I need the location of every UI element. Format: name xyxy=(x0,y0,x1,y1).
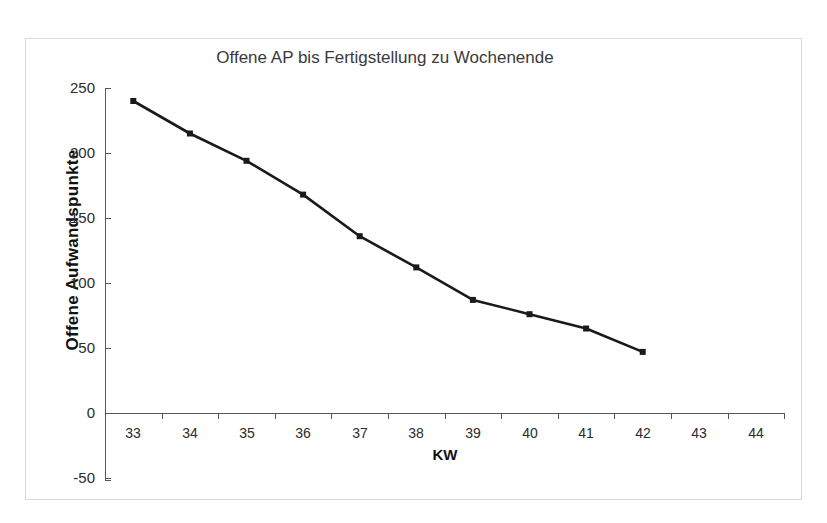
x-tick-mark xyxy=(671,413,672,419)
x-tick-mark xyxy=(784,413,785,419)
x-tick-label: 44 xyxy=(728,425,784,441)
y-axis-bottom-cap xyxy=(105,480,111,481)
y-axis-line xyxy=(105,88,106,480)
x-tick-label: 36 xyxy=(275,425,331,441)
y-tick-label: -50 xyxy=(35,469,95,486)
x-tick-label: 43 xyxy=(671,425,727,441)
y-tick-mark xyxy=(105,88,111,89)
x-tick-label: 38 xyxy=(388,425,444,441)
y-tick-mark xyxy=(105,348,111,349)
y-tick-mark xyxy=(105,478,111,479)
y-tick-mark xyxy=(105,413,111,414)
x-tick-label: 35 xyxy=(219,425,275,441)
x-axis-title: KW xyxy=(105,446,785,463)
chart-title: Offene AP bis Fertigstellung zu Wochenen… xyxy=(105,48,665,68)
chart-screenshot: Offene AP bis Fertigstellung zu Wochenen… xyxy=(0,0,827,523)
y-tick-label: 0 xyxy=(35,404,95,421)
y-tick-label: 150 xyxy=(35,209,95,226)
x-tick-label: 40 xyxy=(502,425,558,441)
x-tick-label: 37 xyxy=(332,425,388,441)
x-tick-mark xyxy=(331,413,332,419)
y-tick-mark xyxy=(105,218,111,219)
y-tick-mark xyxy=(105,283,111,284)
x-tick-mark xyxy=(445,413,446,419)
x-tick-label: 33 xyxy=(105,425,161,441)
x-tick-mark xyxy=(501,413,502,419)
y-tick-label: 250 xyxy=(35,79,95,96)
x-tick-label: 41 xyxy=(558,425,614,441)
x-tick-mark xyxy=(558,413,559,419)
x-tick-mark xyxy=(614,413,615,419)
y-tick-label: 200 xyxy=(35,144,95,161)
x-tick-label: 34 xyxy=(162,425,218,441)
y-tick-label: 100 xyxy=(35,274,95,291)
x-tick-label: 42 xyxy=(615,425,671,441)
x-tick-mark xyxy=(162,413,163,419)
x-tick-mark xyxy=(275,413,276,419)
y-tick-mark xyxy=(105,153,111,154)
x-tick-mark xyxy=(728,413,729,419)
x-tick-label: 39 xyxy=(445,425,501,441)
y-tick-label: 50 xyxy=(35,339,95,356)
x-tick-mark xyxy=(218,413,219,419)
x-tick-mark xyxy=(388,413,389,419)
